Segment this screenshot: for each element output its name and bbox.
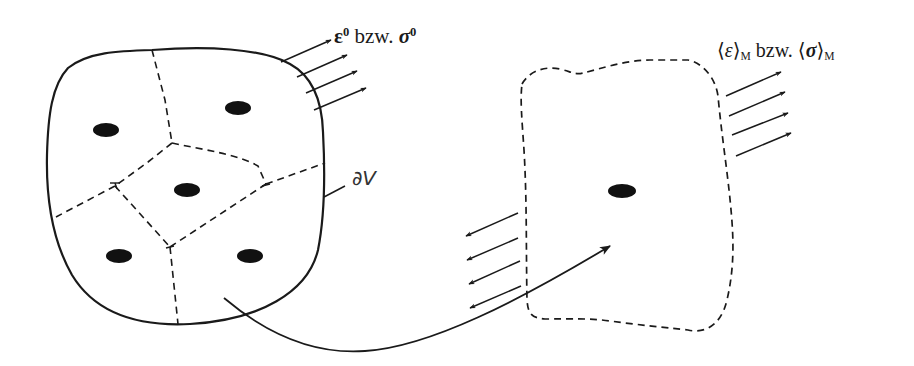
grain-boundary-right xyxy=(266,163,325,184)
boundary-label-text: ∂V xyxy=(352,166,376,190)
boundary-label-leader xyxy=(324,186,345,197)
avg-stress-symbol: σ xyxy=(806,39,817,61)
avg-stress-open: ⟨ xyxy=(798,39,806,61)
averaged-arrow xyxy=(726,72,781,96)
avg-strain-subscript: M xyxy=(741,50,751,63)
particle xyxy=(225,101,251,115)
load-arrow xyxy=(281,40,331,62)
grain-boundary-center-right xyxy=(172,143,266,184)
avg-connector-text: bzw. xyxy=(751,39,798,61)
inward-load-arrows xyxy=(466,213,521,308)
particle xyxy=(106,249,132,263)
avg-strain-close: ⟩ xyxy=(733,39,741,61)
grain-boundary-center-left xyxy=(115,143,172,186)
avg-strain-symbol: ε xyxy=(725,39,733,61)
averaged-load-label: ⟨ε⟩M bzw. ⟨σ⟩M xyxy=(717,40,835,60)
connector-text: bzw. xyxy=(349,24,398,48)
boundary-label: ∂V xyxy=(352,168,376,188)
averaged-arrow xyxy=(736,133,791,156)
stress-symbol: σ xyxy=(399,24,410,48)
homogeneous-particle xyxy=(608,184,636,198)
left-volume xyxy=(47,40,366,324)
stress-superscript: 0 xyxy=(410,25,416,39)
inward-arrow xyxy=(470,286,521,308)
inward-arrow xyxy=(469,261,520,284)
averaged-load-arrows xyxy=(726,72,791,156)
particles xyxy=(93,101,263,263)
applied-load-label: ε0 bzw. σ0 xyxy=(334,26,416,47)
load-arrow xyxy=(297,55,347,77)
averaged-arrow xyxy=(732,113,788,135)
particle xyxy=(237,249,263,263)
averaged-arrow xyxy=(729,92,785,116)
strain-symbol: ε xyxy=(334,24,343,48)
grain-boundary-lower-diag xyxy=(115,186,170,247)
homogenization-diagram: ε0 bzw. σ0 ∂V ⟨ε⟩M bzw. ⟨σ⟩M xyxy=(0,0,914,366)
right-volume xyxy=(466,60,791,331)
load-arrow xyxy=(314,88,366,110)
avg-stress-subscript: M xyxy=(824,50,834,63)
grain-boundary-bottom xyxy=(170,247,178,324)
particle xyxy=(93,123,119,137)
inward-arrow xyxy=(467,238,518,260)
applied-load-arrows xyxy=(281,40,366,110)
grain-boundary-top xyxy=(152,50,172,143)
inward-arrow xyxy=(466,213,518,236)
grain-boundary-left xyxy=(56,186,115,217)
avg-strain-open: ⟨ xyxy=(717,39,725,61)
load-arrow xyxy=(306,71,357,93)
particle xyxy=(174,183,200,197)
